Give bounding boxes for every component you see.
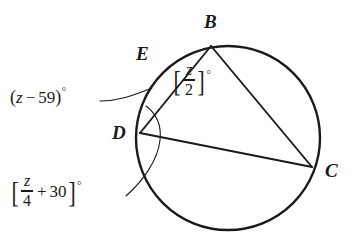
fraction-z-over-2: z 2: [183, 62, 195, 98]
angle-label-z-minus-59: ( z − 59 ) °: [10, 88, 66, 106]
point-label-d: D: [112, 123, 126, 142]
degree-symbol: °: [207, 69, 211, 80]
fraction-numerator: z: [184, 62, 194, 78]
chord-b-c: [211, 46, 312, 167]
leader-arc-z-over-4-plus-30: [126, 106, 160, 196]
degree-symbol: °: [77, 180, 81, 191]
point-label-c: C: [325, 161, 338, 180]
variable-z: z: [16, 89, 23, 106]
angle-label-z-over-4-plus-30: [ z 4 + 30 ] °: [10, 173, 82, 209]
point-label-b: B: [204, 12, 217, 31]
fraction-z-over-4: z 4: [21, 173, 33, 209]
open-bracket: [: [11, 178, 18, 205]
angle-label-z-over-2: [ z 2 ] °: [172, 62, 211, 98]
open-bracket: [: [173, 67, 180, 94]
fraction-denominator: 4: [21, 193, 33, 209]
constant-59: 59: [38, 89, 55, 106]
close-paren: ): [55, 88, 61, 106]
minus-operator: −: [26, 89, 36, 106]
chord-d-c: [140, 133, 312, 167]
degree-symbol: °: [62, 86, 66, 97]
point-label-e: E: [136, 44, 149, 63]
plus-operator: +: [37, 183, 47, 200]
close-bracket: ]: [68, 178, 75, 205]
close-bracket: ]: [197, 67, 204, 94]
fraction-numerator: z: [22, 173, 32, 189]
fraction-denominator: 2: [183, 82, 195, 98]
constant-30: 30: [50, 183, 67, 200]
geometry-figure-canvas: B E D C ( z − 59 ) ° [ z 2 ] ° [ z 4 + 3…: [0, 0, 354, 236]
